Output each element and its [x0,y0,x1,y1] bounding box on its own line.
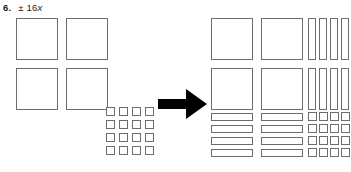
x-squared-tile [16,68,58,110]
right-vertical-bar-group [308,18,351,110]
unit-tile [341,136,350,145]
left-large-square-group [16,18,108,110]
unit-tile [145,133,154,142]
x-squared-tile [211,68,253,110]
unit-tile [132,107,141,116]
unit-tile [330,136,339,145]
right-large-square-group [211,18,303,110]
unit-tile [330,148,339,157]
unit-tile [132,146,141,155]
x-squared-tile [66,68,108,110]
unit-tile [119,146,128,155]
unit-tile [106,120,115,129]
unit-tile [106,146,115,155]
x-tile-horizontal [261,149,303,157]
expression-coefficient: ± 16 [18,2,37,13]
unit-tile [341,112,350,121]
x-tile-horizontal [261,113,303,121]
unit-tile [319,112,328,121]
problem-expression: ± 16x [18,2,42,13]
x-squared-tile [211,18,253,60]
unit-tile [132,120,141,129]
unit-tile [145,146,154,155]
unit-tile [106,133,115,142]
x-tile-vertical [319,18,327,60]
unit-tile [330,112,339,121]
x-tile-vertical [341,18,349,60]
x-tile-horizontal [261,125,303,133]
x-tile-vertical [330,18,338,60]
unit-tile [308,148,317,157]
x-tile-horizontal [211,149,253,157]
unit-tile [106,107,115,116]
problem-label: 6. ± 16x [3,2,43,13]
x-tile-vertical [308,68,316,110]
x-squared-tile [261,68,303,110]
unit-tile [319,136,328,145]
x-tile-vertical [341,68,349,110]
unit-tile [132,133,141,142]
unit-tile [119,120,128,129]
x-tile-horizontal [211,113,253,121]
unit-tile [319,148,328,157]
unit-tile [119,133,128,142]
unit-tile [319,124,328,133]
x-tile-vertical [330,68,338,110]
unit-tile [145,120,154,129]
x-squared-tile [261,18,303,60]
right-horizontal-bar-group [211,113,303,160]
x-tile-horizontal [211,137,253,145]
unit-tile [308,112,317,121]
problem-number: 6. [3,2,11,13]
x-squared-tile [66,18,108,60]
x-tile-horizontal [211,125,253,133]
unit-tile [308,136,317,145]
x-tile-vertical [308,18,316,60]
right-arrow-icon [158,88,208,120]
unit-tile [341,124,350,133]
expression-variable: x [38,2,43,13]
right-unit-square-group [308,113,351,160]
unit-tile [308,124,317,133]
unit-tile [341,148,350,157]
algebra-tiles-figure: 6. ± 16x [0,0,351,172]
x-tile-horizontal [261,137,303,145]
unit-tile [145,107,154,116]
left-unit-square-group [106,107,157,158]
unit-tile [119,107,128,116]
x-squared-tile [16,18,58,60]
unit-tile [330,124,339,133]
x-tile-vertical [319,68,327,110]
